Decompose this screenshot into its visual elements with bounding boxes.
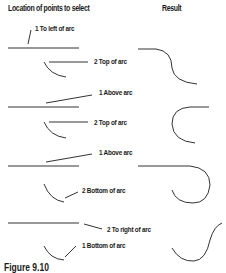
label-point-1: 1 Bottom of arc [82,241,125,250]
label-point-2: 2 Top of arc [94,118,127,127]
example-2-result [172,107,209,143]
result-curve [172,107,209,143]
result-curve [138,49,197,84]
example-1-result [138,49,197,84]
leader-line [65,246,76,257]
label-point-1: 1 Above arc [99,148,132,157]
arc-segment [44,122,66,138]
arc-segment [44,246,64,260]
result-curve [172,223,222,261]
label-point-2: 2 To right of arc [107,225,151,234]
result-curve [138,166,210,203]
figure-caption: Figure 9.10 [4,262,49,273]
example-3-result [138,166,210,203]
example-3-selection [8,154,92,202]
label-point-1: 1 Above arc [99,88,132,97]
leader-line [46,154,92,162]
label-point-2: 2 Top of arc [94,57,127,66]
leader-line [84,224,102,229]
example-4-result [172,223,222,261]
example-1-selection [8,30,88,77]
arc-segment [44,184,64,202]
example-2-selection [8,95,92,138]
leader-line [28,30,31,44]
label-point-1: 1 To left of arc [35,24,74,33]
label-point-2: 2 Bottom of arc [82,186,125,195]
leader-line [65,192,78,198]
arc-segment [44,62,66,77]
leader-line [46,95,92,103]
